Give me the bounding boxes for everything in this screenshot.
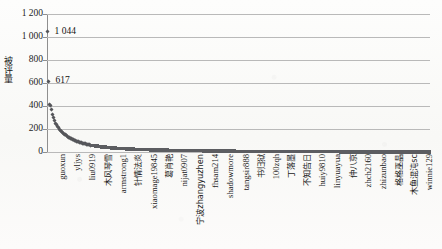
- x-axis-tick-label: liu0919: [88, 154, 97, 180]
- x-axis-tick-label: 格格巫晶: [395, 154, 403, 186]
- x-axis-tick-label: huiy9810: [318, 154, 327, 186]
- x-axis-tick-label: shadowmore: [226, 154, 235, 198]
- gridline: [47, 129, 430, 130]
- x-axis-tick-label: 葛肖艳: [165, 154, 173, 178]
- y-axis-tickmark: [43, 14, 47, 15]
- y-axis-tick-label: 200: [1, 124, 43, 134]
- y-axis-tick-label: 0: [1, 147, 43, 157]
- chart-screenshot: 被评量 02004006008001 0001 200 1 044617 guo…: [0, 0, 442, 249]
- data-point-label: 617: [56, 76, 70, 86]
- x-axis-tick-label: 不知告日: [303, 154, 311, 186]
- data-point: [45, 30, 49, 34]
- x-axis-tick-label: nijat0907: [180, 154, 189, 186]
- x-axis-tick-label: yljys: [73, 154, 82, 171]
- y-axis-tick-label: 600: [1, 78, 43, 88]
- x-axis-tick-label: zhizunbao: [379, 154, 388, 189]
- gridline: [47, 37, 430, 38]
- gridline: [47, 60, 430, 61]
- x-axis-tick-label: tangsir888: [242, 154, 251, 190]
- x-axis-tick-label: 木风琴雪: [104, 154, 112, 186]
- x-axis-tick-label: 宁波zhangyuzhen: [196, 154, 204, 225]
- gridline: [47, 14, 430, 15]
- x-axis-tick-labels: guoxunyljysliu0919木风琴雪armstrong1针情法炎xiao…: [47, 154, 430, 249]
- x-axis-tick-label: xiaomage19845: [150, 154, 159, 209]
- x-axis-tick-label: linyuayua: [333, 154, 342, 188]
- y-axis-tick-label: 400: [1, 101, 43, 111]
- y-axis-tickmark: [43, 83, 47, 84]
- gridline: [47, 83, 430, 84]
- y-axis-tickmark: [43, 152, 47, 153]
- data-point-label: 1 044: [55, 27, 76, 37]
- x-axis-tick-label: 100zqh: [272, 154, 281, 179]
- x-axis-tick-label: 书归狱: [257, 154, 265, 178]
- y-axis-tick-label: 1 000: [1, 32, 43, 42]
- y-axis-tickmark: [43, 60, 47, 61]
- gridline: [47, 106, 430, 107]
- x-axis-tick-label: armstrong1: [119, 154, 128, 193]
- x-axis-tick-label: zhch2160: [364, 154, 373, 187]
- y-axis-tick-labels: 02004006008001 0001 200: [0, 0, 43, 249]
- x-axis-tick-label: 仲八京: [349, 154, 357, 178]
- y-axis-tick-label: 800: [1, 55, 43, 65]
- y-axis-tick-label: 1 200: [1, 9, 43, 19]
- x-axis-tick-label: guoxun: [58, 154, 67, 180]
- y-axis-tickmark: [43, 129, 47, 130]
- x-axis-tick-label: 木鱼混沌sc: [410, 154, 418, 195]
- y-axis-tickmark: [43, 106, 47, 107]
- x-axis-tick-label: fhsam214: [211, 154, 220, 188]
- x-axis-tick-label: winnie129: [425, 154, 434, 190]
- x-axis-tick-label: 丁落墨: [287, 154, 295, 178]
- data-point: [49, 108, 53, 112]
- y-axis-tickmark: [43, 37, 47, 38]
- plot-area: 1 044617: [47, 14, 430, 152]
- x-axis-tick-label: 针情法炎: [134, 154, 142, 186]
